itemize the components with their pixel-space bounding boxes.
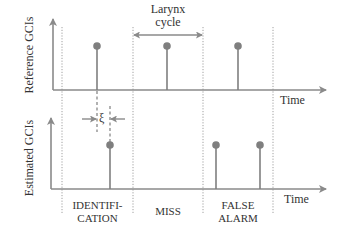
- estimated-gci-1: [107, 142, 113, 148]
- reference-axes: [53, 19, 326, 90]
- estimated-stems: [107, 142, 263, 189]
- larynx-cycle-line2: cycle: [143, 16, 193, 29]
- reference-gci-2: [164, 43, 170, 49]
- reference-gcis-label: Reference GCIs: [22, 17, 37, 94]
- reference-time-label: Time: [280, 93, 305, 108]
- xi-symbol: ξ: [99, 111, 104, 126]
- reference-stems: [94, 43, 241, 90]
- larynx-cycle-label: Larynx cycle: [143, 3, 193, 29]
- estimated-gci-3: [257, 142, 263, 148]
- region-identification: IDENTIFI- CATION: [62, 199, 133, 225]
- estimated-gci-2: [213, 142, 219, 148]
- estimated-axes: [51, 118, 326, 189]
- region-miss: MISS: [133, 205, 203, 218]
- region-false-alarm: FALSE ALARM: [203, 199, 273, 225]
- reference-gci-3: [235, 43, 241, 49]
- reference-gci-1: [94, 43, 100, 49]
- estimated-gcis-label: Estimated GCIs: [22, 120, 37, 196]
- estimated-time-label: Time: [284, 192, 309, 207]
